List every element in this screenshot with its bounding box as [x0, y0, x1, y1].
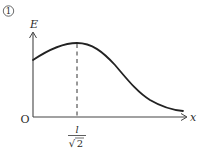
graph-figure: 1 E x O l √ 2 — [0, 0, 202, 159]
tick-label-l-over-root2: l √ 2 — [68, 124, 86, 149]
graph-canvas: 1 E x O l √ 2 — [0, 0, 202, 159]
tick-denominator: 2 — [77, 138, 83, 149]
x-axis-label: x — [190, 111, 197, 124]
sqrt-symbol: √ — [69, 138, 76, 149]
figure-number-text: 1 — [6, 6, 11, 16]
origin-label: O — [20, 113, 29, 126]
energy-curve — [33, 43, 183, 111]
y-axis-label: E — [29, 18, 38, 31]
figure-number-badge: 1 — [3, 6, 13, 16]
tick-numerator: l — [75, 124, 78, 135]
